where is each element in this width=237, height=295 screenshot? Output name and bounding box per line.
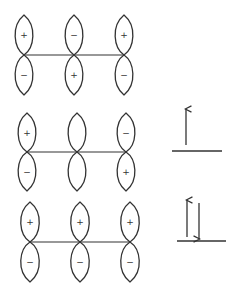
phase-sign-top: + [76, 217, 84, 227]
phase-sign-top: − [122, 128, 130, 138]
top-lobe [68, 113, 86, 152]
phase-sign-top: + [26, 217, 34, 227]
orbital-row-psi2-nonbonding: +−−+ [18, 113, 135, 191]
phase-sign-top: − [70, 30, 78, 40]
molecular-orbital-diagram: +−−++−+−−++−+−+− [0, 0, 237, 295]
energy-levels [172, 109, 226, 241]
orbital-row-psi1-bonding: +−+−+− [21, 202, 140, 282]
phase-sign-bottom: − [26, 257, 34, 267]
phase-sign-bottom: − [20, 70, 28, 80]
phase-sign-bottom: − [120, 70, 128, 80]
phase-sign-top: + [23, 128, 31, 138]
orbital-rows: +−−++−+−−++−+−+− [15, 15, 139, 282]
orbital-row-psi3-antibonding: +−−++− [15, 15, 133, 95]
phase-sign-bottom: + [122, 167, 130, 177]
energy-level-psi1-bonding [177, 200, 226, 241]
phase-sign-top: + [20, 30, 28, 40]
bottom-lobe [68, 152, 86, 191]
phase-sign-bottom: − [76, 257, 84, 267]
phase-sign-top: + [126, 217, 134, 227]
phase-sign-bottom: − [126, 257, 134, 267]
energy-level-psi2-nonbonding [172, 109, 222, 151]
phase-sign-top: + [120, 30, 128, 40]
phase-sign-bottom: + [70, 70, 78, 80]
phase-sign-bottom: − [23, 167, 31, 177]
